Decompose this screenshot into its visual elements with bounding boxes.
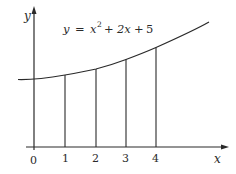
tick-label-3: 3 xyxy=(122,152,129,165)
equation-equals: = xyxy=(75,22,85,36)
equation-2x: 2x xyxy=(116,22,131,36)
equation-plus-1: + xyxy=(104,22,114,36)
y-axis-label: y xyxy=(23,9,31,23)
equation-x: x xyxy=(90,22,97,36)
diagram-canvas: y x 0 1 2 3 4 y = x 2 + 2x + 5 xyxy=(0,0,236,174)
tick-label-4: 4 xyxy=(152,152,159,165)
tick-label-0: 0 xyxy=(30,154,37,167)
tick-label-1: 1 xyxy=(62,152,69,165)
equation-label: y = x 2 + 2x + 5 xyxy=(62,20,153,36)
tick-label-2: 2 xyxy=(92,152,99,165)
equation-plus-2: + xyxy=(134,22,144,36)
equation-5: 5 xyxy=(146,22,153,36)
equation-exponent: 2 xyxy=(97,20,102,29)
x-axis-arrow-icon xyxy=(221,145,229,150)
equation-lhs: y xyxy=(62,22,70,36)
x-axis-label: x xyxy=(214,152,221,166)
y-axis-arrow-icon xyxy=(32,6,37,14)
